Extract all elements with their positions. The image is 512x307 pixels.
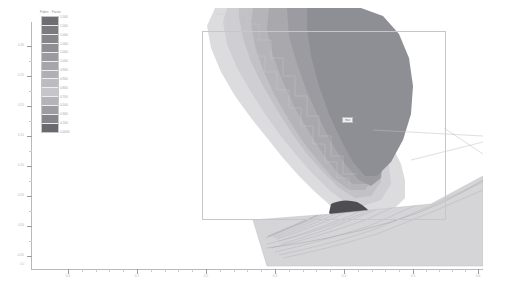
x-tick-minor-3-2 <box>303 269 304 272</box>
x-tick-minor-5-4 <box>465 269 466 272</box>
colorbar-band-2 <box>42 35 58 44</box>
x-tick-label-4: 0.4 <box>342 275 346 278</box>
contour-plot-area <box>31 8 483 270</box>
figure-canvas: max 0.300.250.200.150.100.050.00-0.05 0.… <box>0 0 512 307</box>
y-tick-2: 0.20 <box>27 106 32 107</box>
colorbar-band-6 <box>42 71 58 80</box>
colorbar-band-0 <box>42 17 58 26</box>
x-tick-minor-0-2 <box>96 269 97 272</box>
colorbar-tick-label-11: 0.300 <box>60 113 68 116</box>
y-tick-label-7: -0.05 <box>17 254 24 257</box>
x-tick-label-1: 0.1 <box>135 275 139 278</box>
x-tick-minor-4-4 <box>399 269 400 272</box>
x-tick-minor-2-1 <box>220 269 221 272</box>
x-tick-minor-2-4 <box>261 269 262 272</box>
y-tick-label-5: 0.05 <box>18 194 24 197</box>
colorbar-tick-label-13: 0.0000 <box>60 131 69 134</box>
x-tick-label-0: 0.0 <box>66 275 70 278</box>
colorbar-tick-label-8: 0.800 <box>60 87 68 90</box>
y-tick-label-4: 0.10 <box>18 164 24 167</box>
colorbar-tick-label-4: 1.000 <box>60 51 68 54</box>
colorbar-tick-label-5: 1.000 <box>60 60 68 63</box>
contour-band-group <box>207 8 413 218</box>
colorbar-band-7 <box>42 79 58 88</box>
y-tick-minor-3 <box>29 151 32 152</box>
colorbar-tick-label-7: 0.900 <box>60 78 68 81</box>
colorbar-band-4 <box>42 53 58 62</box>
x-tick-minor-3-4 <box>330 269 331 272</box>
colorbar-tick-labels: 1.0001.0001.0001.0001.0001.0000.9000.900… <box>60 14 86 133</box>
x-tick-minor-4-1 <box>358 269 359 272</box>
y-tick-label-1: 0.25 <box>18 74 24 77</box>
x-tick-minor-5-2 <box>439 269 440 272</box>
colorbar-legend: Fabric Factor 1.0001.0001.0001.0001.0001… <box>40 10 86 134</box>
x-tick-minor-1-4 <box>192 269 193 272</box>
colorbar-tick-label-0: 1.000 <box>60 16 68 19</box>
x-tick-minor-2-3 <box>247 269 248 272</box>
colorbar-band-10 <box>42 106 58 115</box>
y-tick-3: 0.15 <box>27 136 32 137</box>
colorbar-band-12 <box>42 124 58 132</box>
colorbar-tick-label-3: 1.000 <box>60 43 68 46</box>
y-axis <box>31 22 32 270</box>
y-tick-label-0: 0.30 <box>18 44 24 47</box>
y-tick-6: 0.00 <box>27 226 32 227</box>
x-axis <box>31 269 483 270</box>
x-tick-label-3: 0.3 <box>273 275 277 278</box>
x-tick-minor-4-2 <box>372 269 373 272</box>
y-tick-5: 0.05 <box>27 196 32 197</box>
x-tick-minor-1-1 <box>151 269 152 272</box>
y-tick-0: 0.30 <box>27 46 32 47</box>
colorbar-tick-label-10: 0.500 <box>60 104 68 107</box>
legend-title-word-1: Fabric <box>40 10 49 15</box>
y-tick-1: 0.25 <box>27 76 32 77</box>
y-tick-minor-1 <box>29 91 32 92</box>
x-tick-minor-5-1 <box>426 269 427 272</box>
x-tick-label-5: 0.5 <box>411 275 415 278</box>
y-tick-label-6: 0.00 <box>18 224 24 227</box>
x-tick-minor-3-1 <box>289 269 290 272</box>
y-tick-label-2: 0.20 <box>18 104 24 107</box>
y-tick-minor-0 <box>29 61 32 62</box>
colorbar-tick-label-1: 1.000 <box>60 25 68 28</box>
x-tick-minor-0-4 <box>123 269 124 272</box>
y-tick-minor-6 <box>29 241 32 242</box>
y-tick-4: 0.10 <box>27 166 32 167</box>
colorbar-band-5 <box>42 62 58 71</box>
y-tick-7: -0.05 <box>27 256 32 257</box>
origin-label: 0.0 <box>20 262 24 266</box>
x-tick-minor-1-3 <box>178 269 179 272</box>
colorbar-tick-label-2: 1.000 <box>60 34 68 37</box>
colorbar-band-9 <box>42 97 58 106</box>
y-tick-minor-4 <box>29 181 32 182</box>
max-value-annotation: max <box>342 117 353 123</box>
colorbar-tick-label-9: 0.700 <box>60 96 68 99</box>
y-tick-label-3: 0.15 <box>18 134 24 137</box>
x-tick-minor-4-3 <box>385 269 386 272</box>
colorbar-band-8 <box>42 88 58 97</box>
colorbar-tick-label-6: 0.900 <box>60 69 68 72</box>
x-tick-minor-1-2 <box>165 269 166 272</box>
x-tick-minor-3-3 <box>316 269 317 272</box>
x-tick-minor-5-3 <box>452 269 453 272</box>
y-tick-minor-5 <box>29 211 32 212</box>
colorbar-band-11 <box>42 115 58 124</box>
colorbar-band-1 <box>42 26 58 35</box>
colorbar-tick-label-12: 0.200 <box>60 122 68 125</box>
x-tick-label-6: 0.6 <box>476 275 480 278</box>
x-tick-minor-0-3 <box>109 269 110 272</box>
contour-plot-svg <box>31 8 483 270</box>
y-tick-minor-2 <box>29 121 32 122</box>
x-tick-minor-0-1 <box>82 269 83 272</box>
colorbar-band-3 <box>42 44 58 53</box>
x-tick-minor-2-2 <box>234 269 235 272</box>
x-tick-label-2: 0.2 <box>204 275 208 278</box>
colorbar-gradient <box>41 16 59 133</box>
